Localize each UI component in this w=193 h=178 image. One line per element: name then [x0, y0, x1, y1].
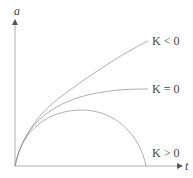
- x-axis-label: t: [185, 159, 189, 173]
- label-k-positive: K > 0: [152, 146, 179, 160]
- label-k-negative: K < 0: [152, 34, 179, 48]
- curve-k-positive: [15, 110, 146, 166]
- label-k-zero: K = 0: [152, 82, 179, 96]
- curve-k-negative: [15, 41, 148, 166]
- y-axis-label: a: [14, 4, 20, 18]
- scale-factor-diagram: a t K < 0 K = 0 K > 0: [0, 0, 193, 178]
